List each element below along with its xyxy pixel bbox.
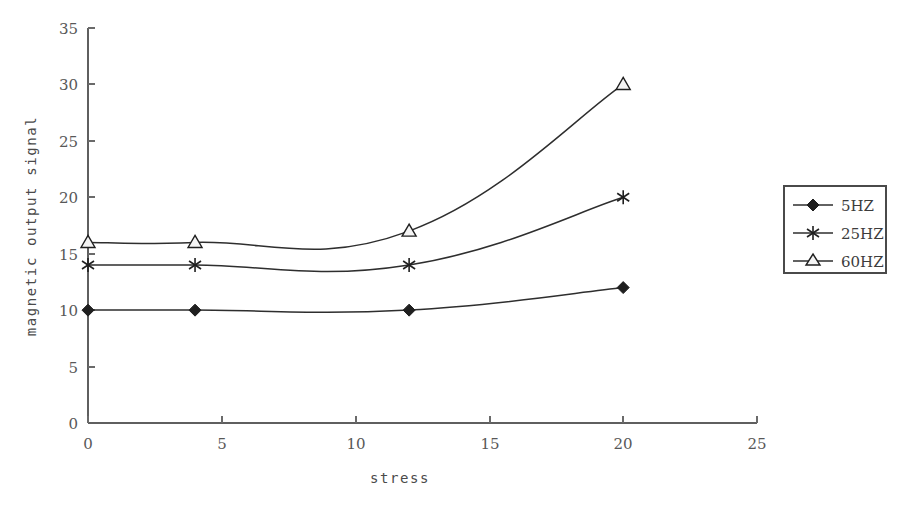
y-tick-label-0: 0: [68, 415, 78, 433]
legend: 5HZ 25HZ 60HZ: [784, 186, 886, 273]
open-triangle-marker: [402, 224, 416, 236]
series-line-60hz: [88, 84, 623, 249]
x-tick-label-10: 10: [346, 435, 365, 453]
open-triangle-marker: [81, 235, 95, 247]
asterisk-marker: [617, 190, 629, 204]
filled-diamond-marker: [189, 304, 201, 316]
x-tick-label-5: 5: [217, 435, 227, 453]
legend-label-25hz: 25HZ: [841, 225, 884, 243]
filled-diamond-marker: [403, 304, 415, 316]
legend-label-5hz: 5HZ: [841, 197, 874, 215]
x-tick-label-20: 20: [613, 435, 632, 453]
y-tick-label-20: 20: [59, 189, 78, 207]
open-triangle-marker: [188, 235, 202, 247]
series-25hz: [82, 190, 629, 272]
series-layer: [81, 77, 630, 316]
open-triangle-marker: [616, 77, 630, 89]
x-tick-label-15: 15: [480, 435, 499, 453]
filled-diamond-marker: [82, 304, 94, 316]
x-tick-label-25: 25: [747, 435, 766, 453]
y-tick-label-5: 5: [68, 359, 78, 377]
y-tick-label-30: 30: [59, 76, 78, 94]
legend-label-60hz: 60HZ: [841, 253, 884, 271]
y-axis-title: magnetic output signal: [23, 116, 39, 337]
line-chart: 35 30 25 20 15 10 5 0 magnetic output si…: [0, 0, 905, 511]
series-line-25hz: [88, 197, 623, 271]
y-axis: 35 30 25 20 15 10 5 0 magnetic output si…: [23, 20, 95, 433]
filled-diamond-marker: [617, 282, 629, 294]
series-60hz: [81, 77, 630, 249]
x-axis-title: stress: [370, 470, 430, 486]
chart-page: 35 30 25 20 15 10 5 0 magnetic output si…: [0, 0, 905, 511]
y-tick-label-15: 15: [59, 246, 78, 264]
y-tick-label-25: 25: [59, 133, 78, 151]
y-tick-label-35: 35: [59, 20, 78, 38]
series-5hz: [82, 282, 629, 317]
y-tick-label-10: 10: [59, 302, 78, 320]
x-axis: 0 5 10 15 20 25 stress: [83, 416, 766, 486]
series-line-5hz: [88, 288, 623, 313]
x-tick-label-0: 0: [83, 435, 93, 453]
